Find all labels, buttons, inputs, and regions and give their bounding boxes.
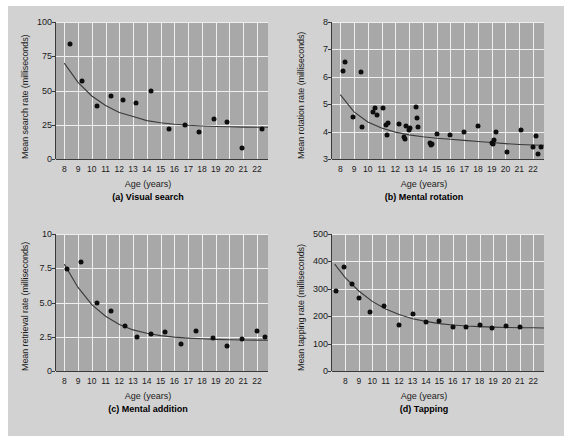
- figure-container: 02550751008910111213141516171819202122Me…: [8, 6, 564, 436]
- data-point: [386, 121, 391, 126]
- panel-caption: (c) Mental addition: [10, 404, 286, 414]
- x-tick-label: 21: [514, 164, 523, 174]
- y-tick-label: 10: [30, 229, 52, 239]
- data-point: [410, 312, 415, 317]
- y-axis-line: [331, 234, 332, 371]
- data-point: [260, 126, 265, 131]
- data-point: [212, 117, 217, 122]
- data-point: [80, 78, 85, 83]
- x-tick-label: 17: [459, 164, 468, 174]
- data-point: [197, 129, 202, 134]
- x-tick-label: 21: [238, 164, 247, 174]
- y-tick-mark: [52, 268, 55, 269]
- data-point: [148, 88, 153, 93]
- y-tick-label: 100: [30, 17, 52, 27]
- x-tick-label: 20: [225, 376, 234, 386]
- x-tick-label: 9: [76, 376, 81, 386]
- data-point: [350, 114, 355, 119]
- data-point: [95, 300, 100, 305]
- data-point: [504, 150, 509, 155]
- data-point: [224, 344, 229, 349]
- data-point: [475, 124, 480, 129]
- data-point: [437, 318, 442, 323]
- x-tick-label: 17: [183, 376, 192, 386]
- x-tick-label: 19: [211, 376, 220, 386]
- data-point: [539, 144, 544, 149]
- y-axis-line: [55, 234, 56, 371]
- data-point: [122, 324, 127, 329]
- x-tick-label: 12: [394, 376, 403, 386]
- y-tick-mark: [328, 49, 331, 50]
- data-point: [254, 329, 259, 334]
- data-point: [341, 69, 346, 74]
- x-tick-label: 20: [502, 376, 511, 386]
- x-tick-label: 16: [170, 164, 179, 174]
- data-point: [385, 133, 390, 138]
- x-tick-label: 22: [528, 164, 537, 174]
- data-point: [65, 266, 70, 271]
- data-point: [148, 332, 153, 337]
- x-tick-label: 9: [356, 376, 361, 386]
- x-tick-label: 18: [197, 164, 206, 174]
- data-point: [183, 122, 188, 127]
- y-tick-label: 400: [306, 256, 328, 266]
- y-tick-mark: [52, 56, 55, 57]
- y-tick-label: 7: [306, 44, 328, 54]
- y-axis-line: [55, 22, 56, 159]
- y-tick-mark: [328, 132, 331, 133]
- data-point: [380, 106, 385, 111]
- fit-curve: [10, 222, 286, 434]
- panel-a: 02550751008910111213141516171819202122Me…: [10, 8, 286, 222]
- data-point: [402, 137, 407, 142]
- x-tick-label: 22: [252, 164, 261, 174]
- y-tick-mark: [52, 125, 55, 126]
- data-point: [210, 336, 215, 341]
- fit-curve: [10, 8, 286, 222]
- panel-caption: (d) Tapping: [286, 404, 562, 414]
- y-tick-label: 2.5: [30, 332, 52, 342]
- data-point: [448, 132, 453, 137]
- y-tick-label: 300: [306, 284, 328, 294]
- x-tick-label: 8: [62, 164, 67, 174]
- x-axis-line: [332, 371, 544, 372]
- y-tick-mark: [328, 104, 331, 105]
- data-point: [382, 304, 387, 309]
- data-point: [224, 120, 229, 125]
- x-tick-label: 14: [142, 376, 151, 386]
- data-point: [356, 295, 361, 300]
- x-axis-title: Age (years): [10, 391, 286, 401]
- x-tick-label: 16: [170, 376, 179, 386]
- x-tick-label: 8: [343, 376, 348, 386]
- data-point: [179, 341, 184, 346]
- data-point: [109, 93, 114, 98]
- y-tick-mark: [328, 77, 331, 78]
- data-point: [78, 260, 83, 265]
- data-point: [67, 41, 72, 46]
- x-tick-label: 12: [115, 164, 124, 174]
- y-tick-mark: [52, 337, 55, 338]
- x-tick-label: 22: [529, 376, 538, 386]
- x-tick-label: 15: [156, 376, 165, 386]
- data-point: [194, 328, 199, 333]
- y-tick-label: 50: [30, 86, 52, 96]
- x-axis-title: Age (years): [286, 179, 562, 189]
- data-point: [492, 137, 497, 142]
- x-tick-label: 18: [197, 376, 206, 386]
- x-tick-label: 13: [128, 376, 137, 386]
- data-point: [358, 70, 363, 75]
- x-tick-label: 11: [377, 164, 386, 174]
- y-tick-label: 0: [30, 154, 52, 164]
- y-tick-label: 25: [30, 120, 52, 130]
- data-point: [359, 124, 364, 129]
- data-point: [416, 124, 421, 129]
- x-tick-label: 18: [473, 164, 482, 174]
- x-tick-label: 15: [156, 164, 165, 174]
- x-tick-label: 13: [408, 376, 417, 386]
- y-tick-mark: [328, 289, 331, 290]
- y-tick-label: 500: [306, 229, 328, 239]
- x-tick-label: 18: [475, 376, 484, 386]
- data-point: [533, 133, 538, 138]
- data-point: [489, 325, 494, 330]
- panel-caption: (a) Visual search: [10, 192, 286, 202]
- y-tick-label: 0: [30, 366, 52, 376]
